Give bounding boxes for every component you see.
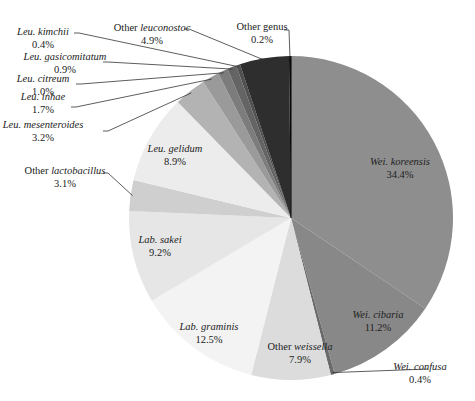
slice-label-value: 8.9%: [164, 156, 186, 167]
slice-label-name: Leu. gasicomitatum: [23, 51, 107, 62]
slice-label-name: Leu. mesenteroides: [2, 119, 84, 130]
slice-label-value: 1.7%: [32, 104, 54, 115]
leader-line: [76, 73, 224, 84]
slice-label-name: Other weissella: [267, 341, 332, 352]
pie-chart: Wei. koreensis34.4%Wei. cibaria11.2%Wei.…: [0, 0, 475, 401]
slice-label-value: 3.1%: [54, 178, 76, 189]
slice-label-value: 9.2%: [149, 247, 171, 258]
slice-label-name: Lab. sakei: [137, 234, 181, 245]
slice-label-value: 0.9%: [54, 64, 76, 75]
slice-label-name: Other lactobacillus: [25, 165, 106, 176]
slice-label-value: 34.4%: [386, 169, 413, 180]
slice-label-value: 7.9%: [289, 354, 311, 365]
slice-label-name: Leu. gelidum: [147, 143, 203, 154]
leader-line: [103, 62, 233, 69]
slice-label-name: Wei. cibaria: [353, 309, 404, 320]
slice-label-name: Wei. koreensis: [370, 156, 430, 167]
slice-label-value: 11.2%: [365, 322, 392, 333]
slice-label-name: Other genus: [236, 21, 287, 32]
slice-label-value: 0.2%: [251, 34, 273, 45]
slice-label-name: Wei. confusa: [393, 361, 446, 372]
slice-label-value: 3.2%: [32, 132, 54, 143]
slice-label-name: Other leuconostoc: [114, 22, 191, 33]
pie-slices: [129, 56, 453, 380]
slice-label-value: 0.4%: [409, 374, 431, 385]
slice-label-value: 0.4%: [32, 39, 54, 50]
leader-line: [284, 30, 290, 58]
slice-label-value: 12.5%: [195, 334, 222, 345]
slice-label-value: 4.9%: [141, 35, 163, 46]
slice-label-name: Leu. kimchii: [16, 26, 69, 37]
slice-label-value: 1.0%: [32, 86, 54, 97]
slice-label-name: Lab. graminis: [179, 321, 239, 332]
leader-line: [103, 173, 133, 196]
